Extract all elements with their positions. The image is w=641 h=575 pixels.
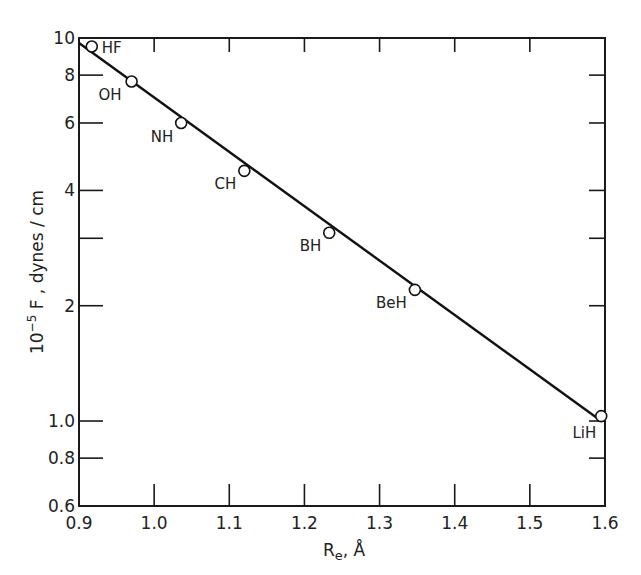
y-tick-label: 2 — [64, 296, 75, 316]
x-tick-label: 1.3 — [366, 513, 393, 533]
data-point-marker — [324, 227, 335, 238]
data-point-marker — [596, 411, 607, 422]
x-tick-label: 0.9 — [65, 513, 92, 533]
x-axis-ticks: 0.91.01.11.21.31.41.51.6 — [65, 38, 618, 533]
data-point-marker — [176, 117, 187, 128]
data-points: HFOHNHCHBHBeHLiH — [86, 39, 606, 443]
data-point-label: NH — [151, 128, 174, 146]
y-tick-label: 4 — [64, 180, 75, 200]
data-point-label: BH — [300, 237, 322, 255]
chart: 0.91.01.11.21.31.41.51.6 0.60.81.0246810… — [0, 0, 641, 575]
data-point-label: BeH — [376, 294, 407, 312]
data-point-marker — [126, 76, 137, 87]
x-tick-label: 1.5 — [516, 513, 543, 533]
y-tick-label: 6 — [64, 113, 75, 133]
data-point-marker — [239, 165, 250, 176]
fit-line — [79, 43, 601, 421]
data-point-label: HF — [102, 39, 122, 57]
plot-frame — [79, 38, 605, 506]
data-point-label: CH — [215, 175, 237, 193]
x-tick-label: 1.4 — [441, 513, 468, 533]
y-tick-label: 8 — [64, 65, 75, 85]
y-tick-label: 10 — [53, 28, 75, 48]
data-point-marker — [86, 41, 97, 52]
data-point-marker — [409, 284, 420, 295]
y-tick-label: 0.6 — [48, 496, 75, 516]
y-tick-label: 1.0 — [48, 411, 75, 431]
data-point-label: LiH — [572, 424, 596, 442]
x-tick-label: 1.0 — [141, 513, 168, 533]
x-axis-label: Re, Å — [323, 539, 366, 563]
data-point-label: OH — [99, 86, 122, 104]
x-tick-label: 1.6 — [591, 513, 618, 533]
y-axis-label: 10−5 F , dynes / cm — [25, 190, 47, 354]
x-tick-label: 1.1 — [216, 513, 243, 533]
y-tick-label: 0.8 — [48, 448, 75, 468]
y-axis-ticks: 0.60.81.0246810 — [48, 28, 605, 516]
x-tick-label: 1.2 — [291, 513, 318, 533]
